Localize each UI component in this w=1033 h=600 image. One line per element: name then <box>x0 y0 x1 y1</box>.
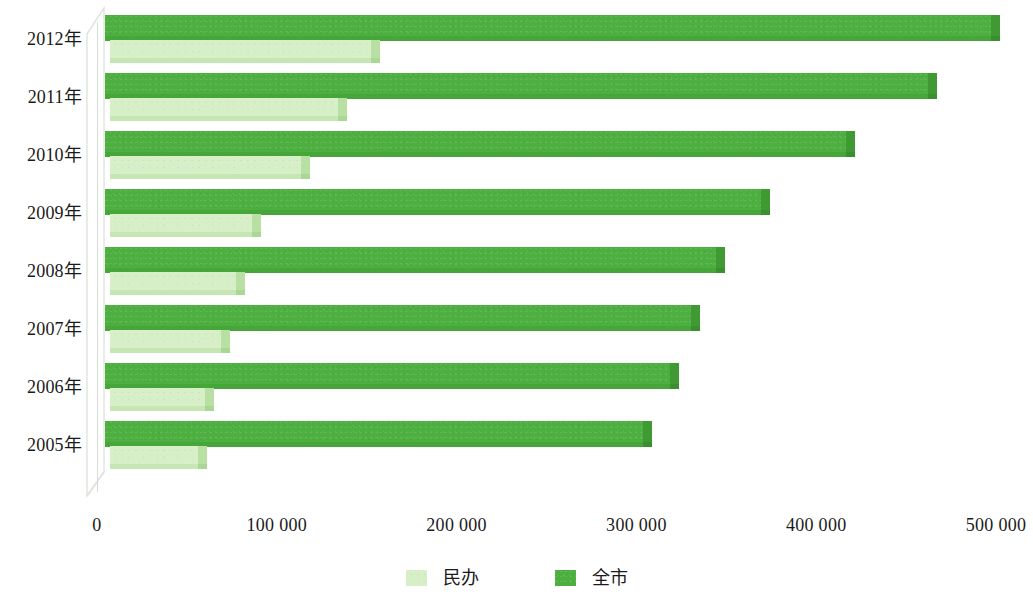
bar-side-face <box>252 214 261 232</box>
bar-private <box>110 156 310 179</box>
bar-side-face <box>236 272 245 290</box>
axis-tick-label: 200 000 <box>426 513 487 537</box>
bar-side-face <box>691 305 700 326</box>
bar-private <box>110 272 245 295</box>
bar-side-face <box>198 446 207 464</box>
legend-label: 全市 <box>592 567 628 589</box>
bar-face <box>105 131 846 152</box>
bar-corner-face <box>928 94 937 99</box>
bar-total <box>105 189 770 215</box>
bar-face <box>105 305 691 326</box>
bar-chart: 2012年2011年2010年2009年2008年2007年2006年2005年… <box>0 0 1033 600</box>
category-label: 2007年 <box>0 316 82 342</box>
bar-face <box>110 446 198 464</box>
bar-face <box>105 15 991 36</box>
category-label: 2006年 <box>0 374 82 400</box>
bar-bottom-face <box>110 464 198 469</box>
bar-side-face <box>301 156 310 174</box>
bar-private <box>110 98 347 121</box>
bar-side-face <box>205 388 214 406</box>
legend-item[interactable]: 民办 <box>406 567 479 589</box>
value-axis: 0100 000200 000300 000400 000500 000 <box>0 505 1033 545</box>
bar-face <box>105 363 670 384</box>
bar-corner-face <box>301 174 310 179</box>
bar-corner-face <box>371 58 380 63</box>
legend-swatch-icon <box>555 570 576 586</box>
bar-bottom-face <box>110 406 205 411</box>
bar-face <box>110 388 205 406</box>
bar-face <box>110 272 236 290</box>
bar-corner-face <box>236 290 245 295</box>
bar-side-face <box>221 330 230 348</box>
bar-face <box>110 214 252 232</box>
bar-corner-face <box>198 464 207 469</box>
bar-total <box>105 247 725 273</box>
bar-face <box>110 330 221 348</box>
bar-side-face <box>761 189 770 210</box>
bar-private <box>110 330 230 353</box>
bar-bottom-face <box>110 290 236 295</box>
category-label: 2010年 <box>0 142 82 168</box>
bar-corner-face <box>221 348 230 353</box>
bar-side-face <box>371 40 380 58</box>
axis-tick-label: 500 000 <box>966 513 1027 537</box>
bar-corner-face <box>670 384 679 389</box>
legend-swatch-icon <box>406 570 427 586</box>
bar-side-face <box>643 421 652 442</box>
bar-face <box>105 189 761 210</box>
bar-total <box>105 305 700 331</box>
axis-tick-label: 300 000 <box>606 513 667 537</box>
bar-total <box>105 363 679 389</box>
legend-item[interactable]: 全市 <box>555 567 628 589</box>
bar-side-face <box>846 131 855 152</box>
bar-corner-face <box>716 268 725 273</box>
bar-face <box>105 73 928 94</box>
bar-group: 2006年 <box>0 360 1033 418</box>
bar-bottom-face <box>110 348 221 353</box>
category-label: 2011年 <box>0 84 82 110</box>
bar-face <box>110 40 371 58</box>
bar-corner-face <box>846 152 855 157</box>
chart-legend: 民办全市 <box>0 562 1033 594</box>
bar-corner-face <box>252 232 261 237</box>
bar-face <box>110 156 301 174</box>
legend-label: 民办 <box>443 567 479 589</box>
bar-side-face <box>928 73 937 94</box>
bar-corner-face <box>338 116 347 121</box>
bar-side-face <box>338 98 347 116</box>
bar-face <box>105 247 716 268</box>
plot-area: 2012年2011年2010年2009年2008年2007年2006年2005年 <box>0 0 1033 510</box>
bar-side-face <box>670 363 679 384</box>
axis-tick-label: 100 000 <box>246 513 307 537</box>
bar-group: 2009年 <box>0 186 1033 244</box>
bar-group: 2011年 <box>0 70 1033 128</box>
category-label: 2008年 <box>0 258 82 284</box>
bar-group: 2012年 <box>0 12 1033 70</box>
bar-group: 2005年 <box>0 418 1033 476</box>
bar-group: 2007年 <box>0 302 1033 360</box>
bar-bottom-face <box>110 232 252 237</box>
bar-corner-face <box>205 406 214 411</box>
bar-bottom-face <box>110 58 371 63</box>
bar-total <box>105 73 937 99</box>
bar-total <box>105 15 1000 41</box>
axis-tick-label: 0 <box>92 513 101 537</box>
category-label: 2009年 <box>0 200 82 226</box>
category-label: 2012年 <box>0 26 82 52</box>
bar-corner-face <box>643 442 652 447</box>
axis-tick-label: 400 000 <box>786 513 847 537</box>
bar-private <box>110 446 207 469</box>
bar-private <box>110 40 380 63</box>
bar-corner-face <box>991 36 1000 41</box>
bar-face <box>110 98 338 116</box>
bar-private <box>110 388 214 411</box>
bar-private <box>110 214 261 237</box>
bar-side-face <box>716 247 725 268</box>
bar-total <box>105 131 855 157</box>
bar-corner-face <box>761 210 770 215</box>
bar-side-face <box>991 15 1000 36</box>
bar-total <box>105 421 652 447</box>
bar-group: 2010年 <box>0 128 1033 186</box>
category-label: 2005年 <box>0 432 82 458</box>
bar-bottom-face <box>110 116 338 121</box>
